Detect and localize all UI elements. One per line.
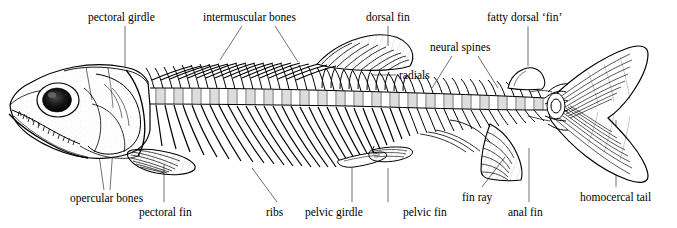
label-dorsal-fin: dorsal fin bbox=[366, 12, 410, 24]
label-pectoral-girdle: pectoral girdle bbox=[88, 12, 155, 24]
label-pelvic-fin: pelvic fin bbox=[403, 207, 447, 219]
anal-fin-leading-edge bbox=[450, 120, 490, 142]
pectoral-fin-group bbox=[127, 149, 195, 174]
eye bbox=[43, 88, 72, 112]
haemal-spines-group bbox=[408, 108, 544, 134]
label-opercular-bones: opercular bones bbox=[70, 193, 143, 205]
skull-group bbox=[9, 65, 150, 159]
anal-fin-group bbox=[450, 120, 522, 181]
fin-ray-detail-group bbox=[420, 130, 480, 152]
leader-ribs bbox=[252, 168, 277, 202]
adipose-fin bbox=[508, 68, 545, 90]
label-fin-ray: fin ray bbox=[462, 192, 492, 204]
label-pelvic-girdle: pelvic girdle bbox=[305, 207, 363, 219]
caudal-fin-outline bbox=[549, 46, 648, 182]
label-neural-spines: neural spines bbox=[430, 42, 490, 54]
vertebral-centra-shading bbox=[157, 89, 542, 110]
label-anal-fin: anal fin bbox=[508, 207, 543, 219]
dorsal-fin-radials bbox=[322, 68, 406, 91]
leader-neural-spines-1 bbox=[432, 56, 452, 88]
label-pectoral-fin: pectoral fin bbox=[139, 207, 192, 219]
homocercal-tail-group bbox=[528, 46, 648, 182]
label-intermuscular-bones: intermuscular bones bbox=[203, 12, 296, 24]
leader-intermuscular-1 bbox=[220, 26, 242, 60]
label-radials: radials bbox=[399, 70, 430, 82]
label-homocercal-tail: homocercal tail bbox=[580, 192, 651, 204]
fish-skeleton-diagram: pectoral girdle intermuscular bones dors… bbox=[0, 0, 677, 228]
label-fatty-dorsal-fin: fatty dorsal ‘fin’ bbox=[487, 12, 562, 24]
eye-highlight bbox=[48, 92, 56, 98]
label-ribs: ribs bbox=[266, 207, 283, 219]
intermuscular-bones-group bbox=[152, 63, 336, 80]
leader-intermuscular-2 bbox=[275, 26, 298, 62]
fish-skeleton bbox=[9, 35, 648, 182]
dorsal-fin-group bbox=[317, 35, 413, 91]
